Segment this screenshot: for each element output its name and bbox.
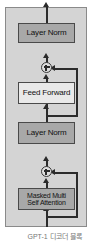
- edge-residual-upper-horizontal: [46, 115, 78, 117]
- node-layer-norm-bottom[interactable]: Layer Norm: [18, 122, 75, 144]
- arrowhead-layernorm-top: [43, 53, 49, 58]
- node-masked-multi-self-attention[interactable]: Masked Multi Self Attention: [18, 188, 75, 210]
- node-masked-attention-label-line1: Masked Multi: [27, 192, 66, 199]
- node-layer-norm-top-label: Layer Norm: [27, 29, 67, 37]
- decoder-block-figure: Layer Norm Feed Forward Layer Norm Maske…: [0, 0, 109, 243]
- add-node-top[interactable]: [41, 62, 52, 73]
- arrowhead-feedforward: [43, 104, 49, 109]
- edge-layernorm-top-to-output: [46, 6, 48, 23]
- node-feed-forward-label: Feed Forward: [23, 89, 70, 97]
- arrowhead-add-bottom: [43, 178, 49, 183]
- arrowhead-output: [43, 2, 49, 7]
- edge-input-to-attention: [46, 210, 48, 227]
- node-feed-forward[interactable]: Feed Forward: [18, 82, 75, 104]
- figure-caption: GPT-1 디코더 블록: [0, 231, 109, 241]
- edge-residual-upper-vertical: [76, 69, 78, 117]
- arrowhead-layernorm-bottom: [43, 156, 49, 161]
- edge-residual-lower-vertical: [76, 173, 78, 218]
- edge-residual-lower-horizontal: [46, 216, 78, 218]
- node-layer-norm-bottom-label: Layer Norm: [27, 129, 67, 137]
- edge-residual-lower-into-add: [54, 172, 78, 174]
- node-layer-norm-top[interactable]: Layer Norm: [18, 23, 75, 43]
- node-masked-attention-label-line2: Self Attention: [27, 199, 65, 206]
- add-node-bottom[interactable]: [41, 166, 52, 177]
- edge-residual-upper-into-add: [54, 68, 78, 70]
